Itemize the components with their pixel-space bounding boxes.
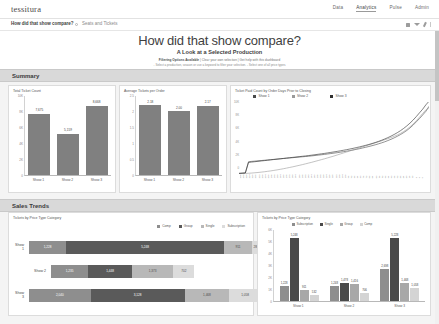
- legend-item: Show 1: [253, 94, 270, 98]
- top-bar: tessitura Data Analytics Pulse Admin: [0, 0, 439, 19]
- y-tick-label: 10K: [18, 94, 23, 98]
- scrollbar-thumb[interactable]: [435, 31, 439, 101]
- y-tick-label: 2: [132, 110, 134, 114]
- line-series-show-3: [239, 102, 429, 173]
- x-tick-label: 0: [421, 176, 428, 179]
- bar: [168, 111, 190, 175]
- filter-options-label: Filtering Options Available: [159, 58, 199, 62]
- bar-group: 2,6985,2281,4681,058: [380, 230, 419, 301]
- segment-value-label: 1,228: [44, 245, 52, 249]
- segment-value-label: 1,468: [203, 293, 211, 297]
- legend-swatch: [292, 223, 295, 226]
- bar-column: 2.17: [197, 96, 219, 175]
- bar: [380, 269, 389, 301]
- legend-item: Single: [320, 222, 333, 226]
- x-tick-label: Show 2: [344, 304, 355, 308]
- legend-label: Subscription: [227, 224, 245, 228]
- legend-label: Group: [184, 224, 193, 228]
- panel-tickets-by-price-type-grouped: Tickets by Price Type Category Subscript…: [257, 212, 431, 316]
- legend-label: Comp: [162, 224, 171, 228]
- x-axis-total-ticket-count: Show 1Show 2Show 3: [24, 178, 111, 182]
- bar-value-label: 1,416: [351, 279, 358, 283]
- y-tick-label: 6K: [19, 126, 23, 130]
- chart-title-ticket-paid-count: Ticket Paid Count by Order Days Prior to…: [235, 89, 311, 93]
- legend-label: Show 2: [297, 94, 308, 98]
- x-tick-label: Show 2: [168, 178, 190, 182]
- table-row: Show 21,2351,4481,373702: [15, 259, 247, 283]
- legend-item: Comp: [157, 224, 171, 228]
- chart-title-total-ticket-count: Total Ticket Count: [13, 89, 41, 93]
- tab-how-did-that-show-compare[interactable]: How did that show compare?: [11, 21, 74, 26]
- chart-title-tickets-by-price-type-stacked: Tickets by Price Type Category: [13, 216, 61, 220]
- panel-average-tickets-per-order: Average Tickets per Order 00.511.522.5 2…: [119, 85, 227, 193]
- filter-hint-line: - Select a production, season or use a k…: [0, 63, 439, 67]
- bar-value-label: 2.18: [147, 100, 153, 104]
- legend-label: Single: [206, 224, 215, 228]
- bar-column: 1,468: [400, 230, 409, 301]
- bar-column: 1,416: [350, 230, 359, 301]
- y-tick-label: 6K: [268, 228, 272, 232]
- legend-swatch: [292, 95, 295, 98]
- stacked-bar: 2,0403,1281,4681,058: [29, 289, 261, 302]
- bar: [300, 290, 309, 301]
- tab-seats-and-tickets[interactable]: Seats and Tickets: [82, 21, 118, 26]
- tab-bar: How did that show compare? Seats and Tic…: [0, 19, 439, 31]
- panel-total-ticket-count: Total Ticket Count 02K4K6K8K10K 7,6755,1…: [8, 85, 116, 193]
- bar-column: 5,159: [57, 96, 79, 175]
- bar-column: 5,228: [390, 230, 399, 301]
- bar: [57, 134, 79, 175]
- section-header-sales-trends: Sales Trends: [0, 199, 439, 212]
- legend-label: Subscription: [297, 222, 314, 226]
- bar-value-label: 532: [312, 290, 317, 294]
- segment-value-label: 911: [236, 245, 241, 249]
- line-series-show-1: [239, 106, 429, 173]
- y-tick-label: 2.5: [130, 94, 134, 98]
- legend-swatch: [360, 223, 363, 226]
- legend-label: Comp: [364, 222, 372, 226]
- grid-icon[interactable]: [406, 23, 410, 27]
- legend-label: Single: [325, 222, 333, 226]
- legend-swatch: [253, 95, 256, 98]
- y-tick-label: 0.5: [130, 158, 134, 162]
- toolbar-icons: [406, 22, 431, 27]
- menu-icon[interactable]: [430, 22, 431, 27]
- bar-series-average-tickets-per-order: 2.182.002.17: [136, 96, 222, 175]
- legend-swatch: [340, 223, 343, 226]
- bar-value-label: 1,468: [401, 278, 408, 282]
- x-tick-label: Show 3: [394, 304, 405, 308]
- legend-swatch: [157, 225, 160, 228]
- x-tick-label: Show 1: [139, 178, 161, 182]
- panel-ticket-paid-count-by-days-prior: Ticket Paid Count by Order Days Prior to…: [230, 85, 431, 193]
- page-scrollbar[interactable]: [435, 31, 439, 324]
- y-tick-label: 0: [132, 174, 134, 178]
- bar-column: 2,698: [380, 230, 389, 301]
- x-tick-label: Show 3: [86, 178, 108, 182]
- filter-options-links[interactable]: | Clear your own selection | Get help wi…: [200, 58, 280, 62]
- y-axis-total-ticket-count: 02K4K6K8K10K: [9, 96, 24, 176]
- nav-item-pulse[interactable]: Pulse: [389, 5, 402, 12]
- bar-column: 1,228: [280, 230, 289, 301]
- segment-value-label: 702: [181, 269, 186, 273]
- bar: [340, 283, 349, 301]
- page-subtitle: A Look at a Selected Production: [0, 49, 439, 55]
- chart-title-average-tickets-per-order: Average Tickets per Order: [124, 89, 165, 93]
- bar: [86, 106, 108, 175]
- bar: [139, 105, 161, 175]
- nav-item-data[interactable]: Data: [333, 5, 344, 12]
- x-tick-label: Show 3: [197, 178, 219, 182]
- y-axis-ticket-paid-count: 02K4K6K8K10K: [231, 102, 239, 168]
- y-tick-label: 1.5: [130, 126, 134, 130]
- x-axis-ticket-paid-count: 2402362322282242202162122082042001961921…: [240, 172, 428, 182]
- play-icon[interactable]: [414, 23, 420, 26]
- table-row: Show 11,2285,248911288: [15, 235, 247, 259]
- line-series-ticket-paid-count: [239, 102, 429, 174]
- bar-value-label: 5,159: [64, 128, 72, 132]
- nav-item-analytics[interactable]: Analytics: [356, 5, 376, 12]
- nav-item-admin[interactable]: Admin: [415, 5, 429, 12]
- legend-ticket-paid-count: Show 1Show 2Show 3: [253, 94, 347, 98]
- bar-value-label: 1,228: [281, 281, 288, 285]
- stacked-bar: 1,2285,248911288: [29, 241, 260, 254]
- pin-icon[interactable]: [423, 22, 427, 27]
- segment-value-label: 1,448: [106, 269, 114, 273]
- bar-value-label: 1,478: [341, 278, 348, 282]
